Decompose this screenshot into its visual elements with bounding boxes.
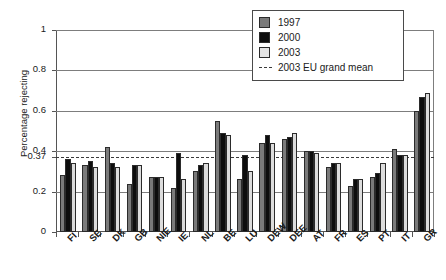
bar-group bbox=[190, 30, 212, 232]
bar bbox=[137, 165, 142, 232]
bar bbox=[203, 163, 208, 232]
chart-legend: 1997 2000 2003 2003 EU grand mean bbox=[252, 10, 404, 81]
bar bbox=[336, 163, 341, 232]
bar-group bbox=[212, 30, 234, 232]
bar-group bbox=[79, 30, 101, 232]
legend-label-1997: 1997 bbox=[278, 17, 300, 28]
bar bbox=[270, 143, 275, 232]
bar-group bbox=[123, 30, 145, 232]
bar bbox=[159, 177, 164, 232]
y-tick-label: 0.2 bbox=[33, 185, 46, 196]
x-axis-labels: FISEDKGBNIEIENLBELUDEWDEEATFRESPTITGR bbox=[56, 236, 434, 280]
y-axis-ticks: 00.20.370.40.60.81 bbox=[0, 0, 56, 280]
bar bbox=[226, 135, 231, 232]
legend-item-1997: 1997 bbox=[259, 15, 397, 30]
y-tick-label: 0.6 bbox=[33, 104, 46, 115]
legend-item-2000: 2000 bbox=[259, 30, 397, 45]
legend-swatch-2000 bbox=[259, 32, 270, 43]
bar bbox=[292, 133, 297, 232]
bar bbox=[380, 163, 385, 232]
bar bbox=[93, 167, 98, 232]
bar bbox=[115, 167, 120, 232]
bar bbox=[425, 93, 430, 232]
legend-item-grand-mean: 2003 EU grand mean bbox=[259, 60, 397, 75]
bar bbox=[248, 171, 253, 232]
legend-item-2003: 2003 bbox=[259, 45, 397, 60]
bar bbox=[71, 163, 76, 232]
y-tick-label: 0 bbox=[41, 225, 46, 236]
y-tick-label: 0.4 bbox=[33, 144, 46, 155]
bar bbox=[314, 153, 319, 232]
y-tick-label: 1 bbox=[41, 23, 46, 34]
legend-label-2003: 2003 bbox=[278, 47, 300, 58]
legend-swatch-2003 bbox=[259, 47, 270, 58]
legend-label-grand-mean: 2003 EU grand mean bbox=[278, 62, 373, 73]
legend-label-2000: 2000 bbox=[278, 32, 300, 43]
bar bbox=[403, 155, 408, 232]
chart-figure: Percentage rejecting 00.20.370.40.60.81 … bbox=[0, 0, 446, 280]
bar bbox=[358, 179, 363, 232]
bar bbox=[181, 179, 186, 232]
legend-dashline-icon bbox=[259, 67, 272, 68]
bar-group bbox=[57, 30, 79, 232]
bar-group bbox=[101, 30, 123, 232]
bar-group bbox=[146, 30, 168, 232]
bar-group bbox=[411, 30, 433, 232]
y-tick-label: 0.8 bbox=[33, 63, 46, 74]
legend-swatch-1997 bbox=[259, 17, 270, 28]
bar-group bbox=[168, 30, 190, 232]
